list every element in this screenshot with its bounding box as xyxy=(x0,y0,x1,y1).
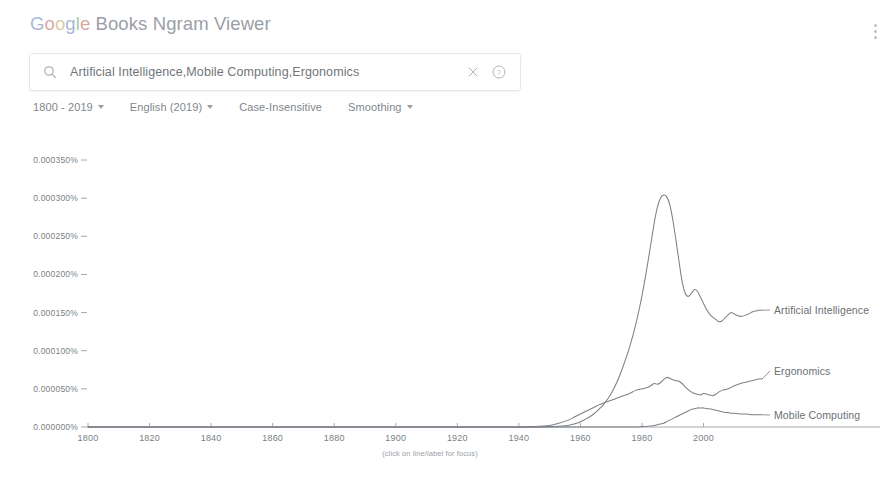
more-vert-icon[interactable] xyxy=(863,18,887,44)
case-insensitive-toggle[interactable]: Case-Insensitive xyxy=(239,101,322,113)
case-insensitive-label: Case-Insensitive xyxy=(239,101,322,113)
x-tick-label: 1960 xyxy=(570,433,591,443)
page-title: Google Books Ngram Viewer xyxy=(30,13,271,35)
y-tick-label: 0.000350% xyxy=(33,155,78,165)
y-tick-label: 0.000300% xyxy=(33,193,78,203)
y-tick-label: 0.000000% xyxy=(33,422,78,432)
series-line-mobile-computing[interactable] xyxy=(88,408,762,427)
x-tick-label: 1860 xyxy=(262,433,283,443)
page-title-rest: Books Ngram Viewer xyxy=(90,13,270,34)
x-tick-label: 1840 xyxy=(201,433,222,443)
corpus-selector[interactable]: English (2019) xyxy=(130,101,213,113)
series-lines[interactable] xyxy=(88,195,762,427)
search-bar[interactable]: ? xyxy=(29,53,521,91)
close-icon[interactable] xyxy=(462,61,484,83)
page-title-letter-o2: o xyxy=(55,13,65,34)
chart-svg[interactable]: 0.000350%0.000300%0.000250%0.000200%0.00… xyxy=(0,140,892,482)
search-icon xyxy=(42,64,58,80)
x-tick-label: 2000 xyxy=(693,433,714,443)
help-circle-icon[interactable]: ? xyxy=(488,61,510,83)
x-tick-label: 1880 xyxy=(324,433,345,443)
series-label-mobile-computing[interactable]: Mobile Computing xyxy=(774,409,860,421)
year-range-selector[interactable]: 1800 - 2019 xyxy=(33,101,104,113)
svg-text:?: ? xyxy=(497,68,501,77)
series-line-artificial-intelligence[interactable] xyxy=(88,195,762,427)
y-tick-label: 0.000100% xyxy=(33,346,78,356)
series-labels[interactable]: Artificial IntelligenceErgonomicsMobile … xyxy=(762,304,869,421)
x-tick-label: 1800 xyxy=(78,433,99,443)
y-tick-label: 0.000250% xyxy=(33,231,78,241)
x-tick-label: 1940 xyxy=(508,433,529,443)
series-line-ergonomics[interactable] xyxy=(88,377,762,427)
chevron-down-icon xyxy=(98,105,104,109)
smoothing-selector[interactable]: Smoothing xyxy=(348,101,413,113)
options-row: 1800 - 2019 English (2019) Case-Insensit… xyxy=(33,101,439,113)
y-tick-label: 0.000050% xyxy=(33,384,78,394)
x-axis: 1800182018401860188019001920194019601980… xyxy=(78,423,880,443)
kebab-dot xyxy=(874,24,877,27)
x-tick-label: 1980 xyxy=(632,433,653,443)
corpus-label: English (2019) xyxy=(130,101,202,113)
page-title-letter-g: g xyxy=(65,13,75,34)
series-label-ergonomics[interactable]: Ergonomics xyxy=(774,365,830,377)
kebab-dot xyxy=(874,30,877,33)
x-tick-label: 1900 xyxy=(385,433,406,443)
search-input[interactable] xyxy=(70,65,458,79)
page-title-letter-o1: o xyxy=(45,13,55,34)
kebab-dot xyxy=(874,36,877,39)
page-title-letter-G: G xyxy=(30,13,45,34)
y-tick-label: 0.000200% xyxy=(33,269,78,279)
page-title-letter-e: e xyxy=(80,13,90,34)
chart-note: (click on line/label for focus) xyxy=(382,449,478,458)
year-range-label: 1800 - 2019 xyxy=(33,101,93,113)
ngram-chart[interactable]: 0.000350%0.000300%0.000250%0.000200%0.00… xyxy=(0,140,892,482)
chevron-down-icon xyxy=(207,105,213,109)
chevron-down-icon xyxy=(407,105,413,109)
y-axis: 0.000350%0.000300%0.000250%0.000200%0.00… xyxy=(33,155,87,432)
x-tick-label: 1920 xyxy=(447,433,468,443)
smoothing-label: Smoothing xyxy=(348,101,402,113)
series-label-artificial-intelligence[interactable]: Artificial Intelligence xyxy=(774,304,869,316)
x-tick-label: 1820 xyxy=(139,433,160,443)
series-leader-line xyxy=(762,371,770,379)
y-tick-label: 0.000150% xyxy=(33,308,78,318)
